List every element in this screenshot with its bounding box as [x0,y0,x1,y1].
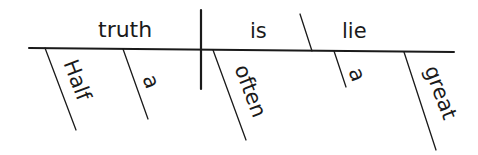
baseline [29,48,454,52]
verb-word: is [250,21,267,42]
modifier-line-a2 [334,51,346,87]
predicate-nominative-word: lie [342,21,367,42]
subject-word: truth [98,19,152,41]
verb-complement-divider [300,14,312,51]
sentence-diagram: truth is lie Half a often a great [0,0,478,155]
